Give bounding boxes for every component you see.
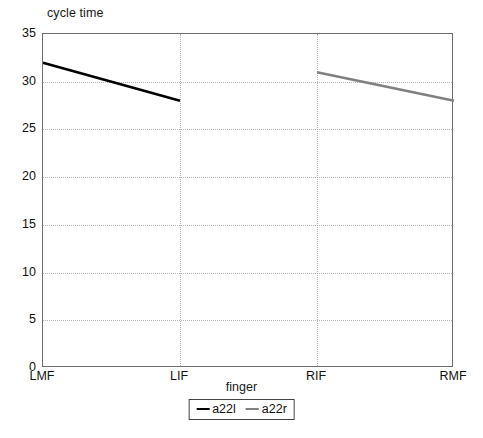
gridline-vertical: [180, 34, 181, 366]
y-axis-tick-label: 30: [4, 74, 36, 88]
legend-item-a22r[interactable]: a22r: [246, 402, 287, 416]
chart-legend[interactable]: a22la22r: [188, 399, 295, 420]
gridline-horizontal: [43, 82, 452, 83]
legend-label: a22r: [262, 402, 287, 416]
cycle-time-chart: cycle time 05101520253035 LMFLIFRIFRMF f…: [0, 0, 483, 438]
gridline-horizontal: [43, 129, 452, 130]
gridline-horizontal: [43, 225, 452, 226]
plot-area: [42, 33, 453, 367]
legend-line-swatch: [246, 408, 259, 410]
series-lines: [43, 34, 454, 368]
x-axis-title: finger: [0, 380, 483, 394]
y-axis-tick-label: 10: [4, 265, 36, 279]
gridline-horizontal: [43, 177, 452, 178]
legend-item-a22l[interactable]: a22l: [196, 402, 236, 416]
y-axis-tick-label: 5: [4, 312, 36, 326]
y-axis-tick-label: 25: [4, 121, 36, 135]
series-line-a22r: [317, 72, 454, 101]
y-axis-tick-labels: 05101520253035: [0, 33, 36, 367]
gridline-horizontal: [43, 273, 452, 274]
chart-title: cycle time: [47, 6, 104, 20]
y-axis-tick-label: 20: [4, 169, 36, 183]
legend-line-swatch: [196, 408, 209, 410]
y-axis-tick-label: 35: [4, 26, 36, 40]
legend-label: a22l: [212, 402, 236, 416]
y-axis-tick-label: 15: [4, 217, 36, 231]
gridline-horizontal: [43, 320, 452, 321]
gridline-vertical: [317, 34, 318, 366]
